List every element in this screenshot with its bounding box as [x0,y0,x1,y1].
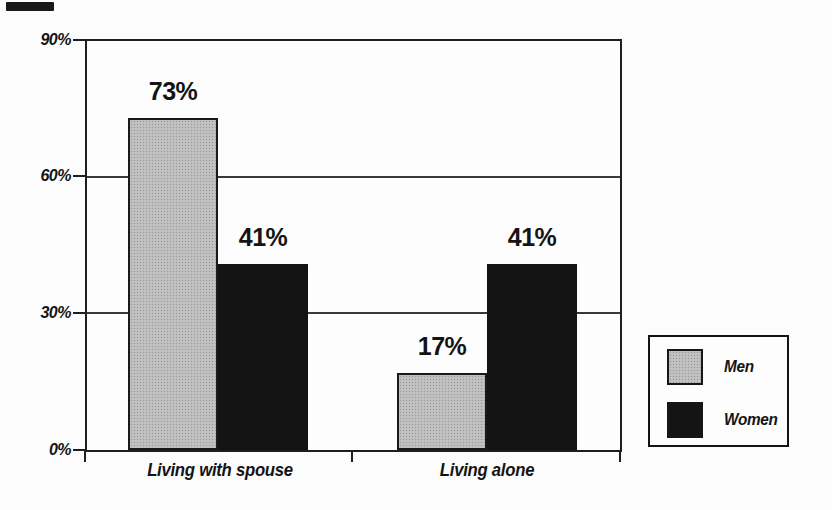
y-axis-label-90: 90% [8,31,71,49]
bar-value-label-men-alone: 17% [418,332,467,361]
x-axis-tick-left [84,451,86,462]
legend: Men Women [648,335,789,447]
y-axis-tick-60 [73,175,85,177]
x-axis-tick-right [619,451,621,462]
legend-swatch-men [667,349,703,385]
legend-label-men: Men [724,357,754,377]
y-axis-tick-30 [73,312,85,314]
category-label-living-with-spouse: Living with spouse [147,459,293,481]
bar-men-living-with-spouse [128,118,218,450]
figure-canvas: 90% 60% 30% 0% 73% 41% 17% 41% Living wi… [0,0,832,510]
y-axis-tick-90 [73,39,85,41]
y-axis-label-30: 30% [8,304,71,322]
scan-artifact-mark [6,2,54,11]
legend-swatch-women [667,402,703,438]
bar-women-living-alone [487,264,577,450]
bar-women-living-with-spouse [218,264,308,450]
category-label-living-alone: Living alone [440,459,534,481]
bar-value-label-women-alone: 41% [508,223,557,252]
bar-value-label-women-spouse: 41% [239,223,288,252]
plot-area: 73% 41% 17% 41% [85,39,622,452]
legend-label-women: Women [724,410,778,430]
y-axis-label-0: 0% [8,441,71,459]
x-axis-tick-middle [351,451,353,462]
y-axis-label-60: 60% [8,167,71,185]
legend-entry-women: Women [667,402,784,438]
bar-men-living-alone [397,373,487,450]
legend-entry-men: Men [667,349,757,385]
bar-value-label-men-spouse: 73% [149,77,198,106]
